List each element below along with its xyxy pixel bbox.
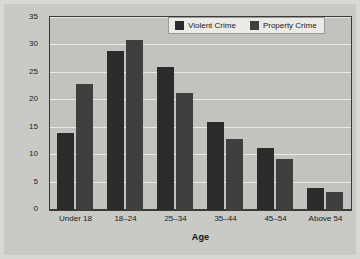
bar-violent-crime xyxy=(57,133,74,210)
gridline xyxy=(50,99,351,100)
bar-violent-crime xyxy=(307,188,324,210)
legend-item: Violent Crime xyxy=(175,21,236,30)
y-axis-tick-label: 0 xyxy=(0,204,38,213)
x-axis-tick-label: 18–24 xyxy=(114,214,136,223)
y-axis-tick-label: 20 xyxy=(0,94,38,103)
plot-panel xyxy=(49,16,352,211)
y-axis-tick-label: 10 xyxy=(0,149,38,158)
y-axis-tick-label: 35 xyxy=(0,12,38,21)
legend-item: Property Crime xyxy=(250,21,317,30)
figure-background: Percentage of Total Arrests 051015202530… xyxy=(4,4,356,255)
bar-property-crime xyxy=(326,192,343,210)
bar-property-crime xyxy=(126,40,143,210)
gridline xyxy=(50,44,351,45)
x-axis-tick-label: Under 18 xyxy=(59,214,92,223)
bar-property-crime xyxy=(276,159,293,210)
x-axis-tick-label: 45–54 xyxy=(264,214,286,223)
chart-legend: Violent CrimeProperty Crime xyxy=(168,17,325,34)
x-axis-title: Age xyxy=(49,232,352,242)
gridline xyxy=(50,182,351,183)
bar-violent-crime xyxy=(207,122,224,210)
gridline xyxy=(50,127,351,128)
gridline xyxy=(50,72,351,73)
y-axis-tick-label: 30 xyxy=(0,39,38,48)
gridline xyxy=(50,154,351,155)
bar-property-crime xyxy=(176,93,193,210)
legend-label: Violent Crime xyxy=(188,21,236,30)
plot-area xyxy=(50,17,351,210)
bar-violent-crime xyxy=(107,51,124,210)
bar-violent-crime xyxy=(257,148,274,210)
legend-swatch-icon xyxy=(175,21,184,30)
bar-property-crime xyxy=(226,139,243,210)
bar-property-crime xyxy=(76,84,93,210)
x-axis-tick-label: 35–44 xyxy=(214,214,236,223)
x-axis-tick-label: Above 54 xyxy=(309,214,343,223)
y-axis-tick-label: 5 xyxy=(0,176,38,185)
bar-violent-crime xyxy=(157,67,174,210)
chart-figure: Percentage of Total Arrests 051015202530… xyxy=(0,0,360,259)
legend-swatch-icon xyxy=(250,21,259,30)
x-axis-tick-label: 25–34 xyxy=(164,214,186,223)
y-axis-tick-label: 15 xyxy=(0,121,38,130)
y-axis-tick-label: 25 xyxy=(0,66,38,75)
legend-label: Property Crime xyxy=(263,21,317,30)
axis-baseline xyxy=(50,209,351,211)
